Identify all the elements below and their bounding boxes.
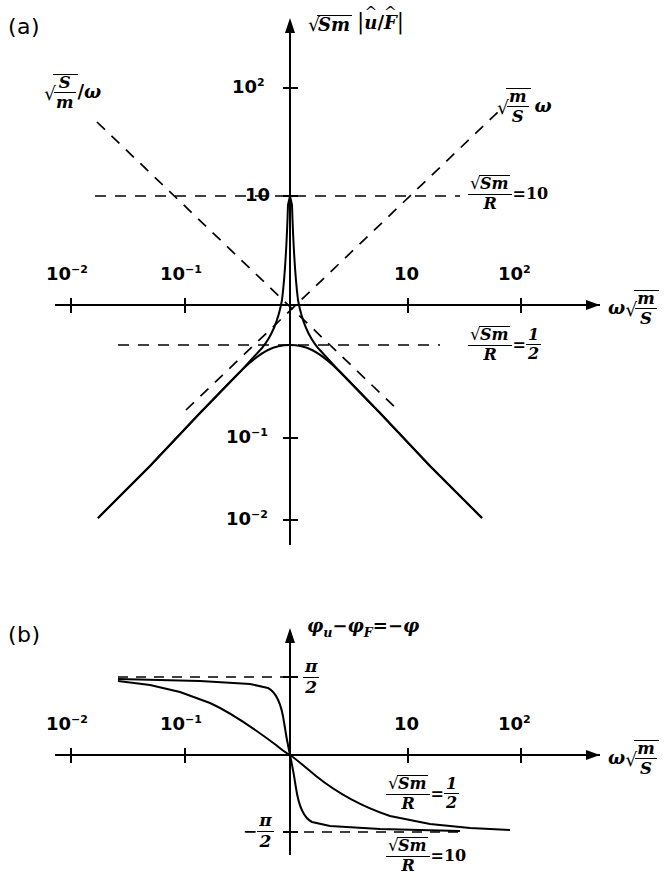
figure-canvas (0, 0, 671, 888)
panel-b-x-tick-label-1e1: 10 (394, 713, 419, 734)
panel-b-curve-label-q10: √SmR=10 (386, 838, 466, 876)
panel-b-x-tick-label-1e2: 102 (498, 713, 531, 734)
sqrt-m-over-S-glyph-2: √mS (497, 88, 531, 127)
panel-a-x-tick-label-1e-1: 10−1 (160, 263, 202, 284)
panel-a-y-tick-label-1e-1: 10−1 (226, 426, 268, 447)
panel-a-x-axis (55, 298, 600, 313)
panel-a-asymptote-lines (97, 110, 500, 412)
panel-a-y-tick-label-1e1: 10 (245, 184, 270, 205)
frac-pi-over-2-neg: π2 (257, 812, 273, 851)
frac-one-half-2: 12 (444, 776, 459, 813)
panel-b-x-axis-title: ω√mS (608, 740, 659, 779)
panel-b-x-axis (55, 748, 600, 763)
frac-sqrtSm-over-R-3: √SmR (386, 775, 430, 813)
panel-a-y-axis-title: √Sm|^u/^F| (308, 11, 404, 34)
asymptote-high-frequency-line (186, 110, 500, 410)
panel-b-x-tick-label-1e-2: 10−2 (46, 713, 88, 734)
sqrt-Sm-glyph: √Sm (308, 15, 352, 34)
panel-b-y-tick-label-minus-pi-over-2: −π2 (243, 813, 274, 852)
frac-sqrtSm-over-R: √SmR (468, 175, 512, 213)
sqrt-m-over-S-glyph: √mS (625, 290, 659, 329)
asymptote-low-frequency-line (97, 122, 400, 412)
panel-a-asymptote-label-high: √mSω (497, 88, 552, 127)
panel-b-curve-label-qhalf: √SmR=12 (386, 776, 459, 814)
frac-pi-over-2: π2 (303, 658, 319, 697)
panel-a-x-tick-label-1e-2: 10−2 (46, 263, 88, 284)
panel-b-y-axis (283, 628, 298, 855)
panel-b-plot (55, 628, 600, 855)
panel-a-x-tick-label-1e2: 102 (498, 263, 531, 284)
panel-a-level-label-q10: √SmR=10 (468, 176, 548, 214)
panel-a-level-label-qhalf: √SmR=12 (468, 327, 541, 365)
frac-sqrtSm-over-R-4: √SmR (386, 837, 430, 875)
panel-a-label: (a) (8, 14, 40, 39)
frac-one-half: 12 (526, 327, 541, 364)
panel-b-label: (b) (8, 622, 41, 647)
panel-b-x-tick-label-1e-1: 10−1 (160, 713, 202, 734)
sqrt-m-over-S-glyph-3: √mS (625, 740, 659, 779)
frac-sqrtSm-over-R-2: √SmR (468, 326, 512, 364)
panel-a-y-tick-label-1e-2: 10−2 (226, 508, 268, 529)
panel-a-x-axis-title: ω√mS (608, 290, 659, 329)
panel-a-asymptote-label-low: √Sm/ω (44, 74, 101, 113)
panel-a-y-tick-label-1e2: 102 (232, 76, 265, 97)
sqrt-S-over-m-glyph: √Sm (44, 74, 78, 113)
x-axis-arrowhead (586, 750, 600, 760)
x-axis-arrowhead (586, 300, 600, 310)
y-axis-arrowhead (285, 18, 295, 33)
figure-root: (a) √Sm|^u/^F| ω√mS √Sm/ω √mSω √SmR=10 √… (0, 0, 671, 888)
y-axis-arrowhead (285, 628, 295, 643)
panel-b-y-axis-title: φu−φF=−φ (307, 617, 419, 639)
panel-b-y-tick-label-plus-pi-over-2: π2 (303, 659, 319, 698)
panel-a-x-tick-label-1e1: 10 (394, 263, 419, 284)
